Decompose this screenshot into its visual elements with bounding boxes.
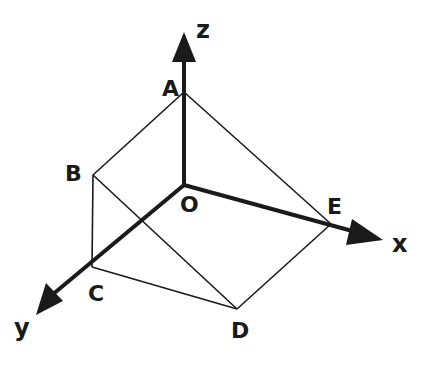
y-axis [52, 185, 184, 295]
x-axis-label: x [392, 230, 408, 258]
x-arrow-icon [346, 219, 383, 245]
solid-edges [92, 92, 331, 309]
arrowheads [36, 32, 383, 315]
z-axis-label: z [196, 16, 210, 44]
y-axis-label: y [14, 314, 30, 342]
edge-DE [237, 224, 331, 309]
diagram-canvas: z x y A B C D E O [0, 0, 423, 365]
point-label-O: O [180, 192, 199, 217]
edge-BC [92, 175, 93, 267]
point-label-E: E [327, 194, 342, 219]
axes [52, 58, 356, 295]
point-label-A: A [162, 76, 179, 101]
point-label-D: D [231, 318, 249, 343]
point-label-B: B [65, 161, 82, 186]
edge-AB [93, 92, 184, 175]
point-label-C: C [88, 281, 104, 306]
z-arrow-icon [172, 32, 196, 62]
